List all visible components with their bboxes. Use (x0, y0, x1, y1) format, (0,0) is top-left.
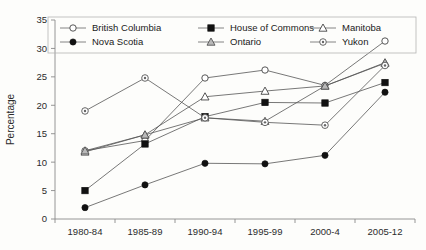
marker-open-circle (70, 25, 76, 31)
marker-filled-circle (382, 89, 388, 95)
legend-label: Manitoba (342, 22, 382, 33)
marker-dot-circle (262, 119, 269, 126)
y-tick-label: 10 (36, 157, 47, 168)
legend-item[interactable]: Ontario (198, 36, 261, 47)
y-tick-label: 25 (36, 71, 47, 82)
marker-open-circle (382, 38, 388, 44)
marker-filled-circle (70, 39, 76, 45)
series-group (81, 59, 389, 154)
series-group (82, 79, 388, 193)
marker-dot-circle (82, 108, 89, 115)
legend-item[interactable]: Nova Scotia (60, 36, 144, 47)
y-tick-label: 20 (36, 100, 47, 111)
chart-legend: British ColumbiaHouse of CommonsManitoba… (48, 17, 416, 53)
y-tick-label: 30 (36, 43, 47, 54)
y-tick-label: 0 (42, 213, 47, 224)
marker-open-circle (202, 75, 208, 81)
legend-label: Nova Scotia (92, 36, 144, 47)
marker-open-circle (262, 67, 268, 73)
marker-filled-circle (202, 160, 208, 166)
marker-filled-circle (322, 152, 328, 158)
legend-item[interactable]: Manitoba (310, 22, 382, 33)
marker-dot-circle (382, 62, 389, 69)
marker-filled-square (208, 25, 214, 31)
marker-dot-circle (202, 114, 209, 121)
y-tick-label: 15 (36, 128, 47, 139)
marker-dot-circle (322, 122, 329, 129)
legend-label: British Columbia (92, 22, 162, 33)
marker-filled-circle (82, 205, 88, 211)
marker-filled-square (142, 141, 148, 147)
line-chart: 051015202530351980-841985-891990-941995-… (0, 0, 426, 250)
marker-dot-circle (142, 75, 149, 82)
x-tick-label: 1980-84 (68, 226, 103, 237)
marker-filled-square (322, 100, 328, 106)
legend-item[interactable]: House of Commons (198, 22, 314, 33)
y-axis-title: Percentage (5, 93, 16, 145)
marker-filled-circle (142, 182, 148, 188)
legend-label: House of Commons (230, 22, 314, 33)
legend-label: Yukon (342, 36, 368, 47)
legend-label: Ontario (230, 36, 261, 47)
y-tick-label: 35 (36, 14, 47, 25)
series-line (85, 83, 385, 191)
chart-canvas: 051015202530351980-841985-891990-941995-… (0, 0, 426, 250)
y-tick-label: 5 (42, 185, 47, 196)
series-group (82, 38, 388, 154)
series-line (85, 41, 385, 151)
x-tick-label: 1985-89 (128, 226, 163, 237)
series-group (82, 89, 388, 211)
x-tick-label: 1995-99 (248, 226, 283, 237)
marker-filled-square (262, 99, 268, 105)
marker-filled-circle (262, 161, 268, 167)
x-tick-label: 2005-12 (368, 226, 403, 237)
marker-filled-square (82, 187, 88, 193)
marker-filled-square (382, 79, 388, 85)
marker-dot-circle (320, 39, 327, 46)
x-tick-label: 2000-4 (310, 226, 340, 237)
series-line (85, 63, 385, 151)
legend-item[interactable]: Yukon (310, 36, 368, 47)
x-tick-label: 1990-94 (188, 226, 223, 237)
legend-item[interactable]: British Columbia (60, 22, 162, 33)
